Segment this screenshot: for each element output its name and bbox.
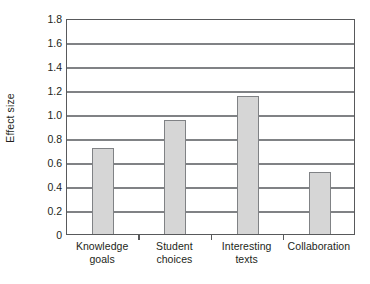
y-axis-tick-label: 1.6 [22, 38, 62, 49]
x-axis-label-line: Interesting [222, 240, 272, 252]
y-axis-tick-label: 0.2 [22, 206, 62, 217]
y-axis-tick-label: 0.8 [22, 134, 62, 145]
y-axis-tick-label: 1.4 [22, 62, 62, 73]
y-axis-tick-label: 0 [22, 230, 62, 241]
bar-chart: Effect size 1.81.61.41.21.00.80.60.40.20… [0, 0, 370, 284]
x-axis-label-line: Collaboration [288, 240, 351, 252]
y-axis-tick-label: 1.0 [22, 110, 62, 121]
x-axis-label-line: choices [138, 253, 210, 266]
x-axis-category-label: Collaboration [283, 240, 355, 253]
x-axis-category-label: Knowledgegoals [66, 240, 138, 266]
x-axis-label-line: texts [211, 253, 283, 266]
bar [237, 96, 259, 234]
gridline [67, 139, 354, 140]
y-axis-tick-labels: 1.81.61.41.21.00.80.60.40.20 [20, 0, 62, 284]
bar [309, 172, 331, 234]
x-axis-category-labels: KnowledgegoalsStudentchoicesInterestingt… [66, 240, 355, 284]
x-axis-label-line: goals [66, 253, 138, 266]
gridline [67, 115, 354, 116]
x-axis-category-label: Interestingtexts [211, 240, 283, 266]
gridline [67, 67, 354, 68]
plot-area [66, 19, 355, 235]
bar [164, 120, 186, 234]
y-axis-title: Effect size [0, 0, 20, 235]
gridline [67, 43, 354, 44]
bar [92, 148, 114, 234]
gridline [67, 91, 354, 92]
x-axis-category-label: Studentchoices [138, 240, 210, 266]
y-axis-tick-label: 1.2 [22, 86, 62, 97]
y-axis-tick-label: 1.8 [22, 14, 62, 25]
y-axis-title-text: Effect size [4, 93, 16, 142]
x-axis-label-line: Student [156, 240, 193, 252]
y-axis-tick-label: 0.6 [22, 158, 62, 169]
x-axis-label-line: Knowledge [76, 240, 128, 252]
y-axis-tick-label: 0.4 [22, 182, 62, 193]
